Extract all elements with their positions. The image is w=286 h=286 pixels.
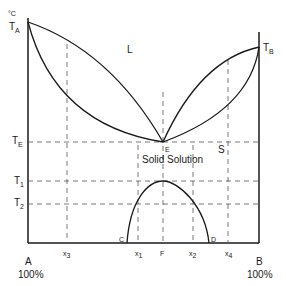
liquidus-curve-a	[28, 22, 163, 142]
unit-label: °C	[8, 10, 16, 17]
liquid-region-label: L	[127, 44, 133, 55]
component-b-percent: 100%	[247, 269, 273, 280]
component-a-percent: 100%	[18, 269, 44, 280]
liquidus-curve-b	[163, 47, 259, 142]
f-label: F	[160, 250, 164, 257]
point-c-label: C	[119, 236, 124, 243]
x3-label: x3	[63, 250, 71, 259]
eutectic-point-label: E	[165, 146, 170, 153]
solid-region-label: S	[218, 144, 225, 155]
t1-label: T1	[14, 175, 24, 188]
solidus-curve-a	[28, 22, 163, 142]
x1-label: x1	[135, 250, 143, 259]
t2-label: T2	[14, 197, 24, 210]
miscibility-gap-curve	[127, 181, 209, 243]
component-a-label: A	[25, 256, 32, 267]
phase-diagram: °C TA TB TE T1 T2 L S Solid Solution E C…	[0, 0, 286, 286]
x4-label: x4	[225, 250, 233, 259]
solidus-curve-b	[163, 47, 259, 142]
x2-label: x2	[189, 250, 197, 259]
point-d-label: D	[211, 236, 216, 243]
te-label: TE	[12, 135, 23, 148]
solid-solution-label: Solid Solution	[142, 154, 203, 165]
ta-label: TA	[9, 21, 20, 34]
tb-label: TB	[263, 42, 274, 55]
component-b-label: B	[256, 256, 263, 267]
